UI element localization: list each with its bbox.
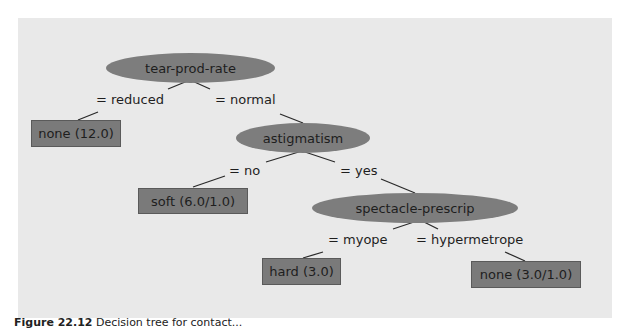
tree-node-astigmatism: astigmatism [236, 123, 370, 153]
leaf-label: hard (3.0) [269, 264, 334, 279]
edge-label-no: = no [229, 163, 260, 178]
leaf-label: none (3.0/1.0) [480, 267, 572, 282]
edge-label-myope: = myope [328, 232, 388, 247]
leaf-none-12: none (12.0) [31, 120, 121, 147]
edge-label-normal: = normal [215, 92, 276, 107]
leaf-none-3: none (3.0/1.0) [471, 261, 581, 288]
leaf-soft: soft (6.0/1.0) [138, 188, 248, 214]
node-label: tear-prod-rate [145, 61, 236, 76]
caption-text: Decision tree for contact... [96, 316, 242, 329]
leaf-label: none (12.0) [38, 126, 114, 141]
node-label: astigmatism [263, 131, 343, 146]
tree-node-tear-prod-rate: tear-prod-rate [106, 53, 275, 83]
tree-node-spectacle-prescrip: spectacle-prescrip [312, 193, 518, 223]
leaf-label: soft (6.0/1.0) [151, 194, 235, 209]
edge-label-hypermetrope: = hypermetrope [416, 232, 523, 247]
node-label: spectacle-prescrip [355, 201, 474, 216]
caption-prefix: Figure 22.12 [14, 316, 93, 329]
edge-label-reduced: = reduced [96, 92, 164, 107]
leaf-hard: hard (3.0) [262, 258, 341, 285]
figure-caption: Figure 22.12 Decision tree for contact..… [14, 316, 242, 329]
edge-label-yes: = yes [340, 163, 378, 178]
